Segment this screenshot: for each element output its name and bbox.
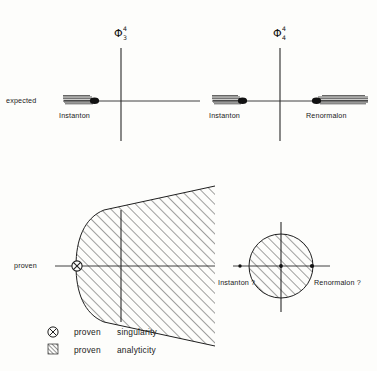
phi-symbol: Φ bbox=[114, 27, 123, 40]
phi-subscript: 3 bbox=[123, 34, 127, 41]
renormalon-query-point bbox=[310, 264, 314, 268]
circled-cross-icon bbox=[48, 327, 58, 337]
top-left-instanton-cut bbox=[63, 96, 99, 104]
top-left-plot-axes bbox=[63, 48, 200, 141]
instanton-query-point bbox=[238, 264, 241, 267]
instanton-label-left: Instanton bbox=[59, 111, 90, 120]
figure-canvas: Φ 4 3 Φ 4 4 expected bbox=[0, 0, 377, 371]
phi-symbol: Φ bbox=[273, 27, 282, 40]
top-right-plot-axes bbox=[212, 48, 368, 141]
instanton-query-label: Instanton ? bbox=[218, 278, 255, 287]
legend-label-word1: proven bbox=[74, 327, 101, 337]
figure-svg: Φ 4 3 Φ 4 4 expected bbox=[0, 0, 377, 371]
legend-label-word2: analyticity bbox=[117, 345, 157, 355]
legend-item-proven-singularity: proven singularity bbox=[48, 327, 158, 337]
proven-singularity-marker bbox=[72, 261, 82, 271]
row-label-proven: proven bbox=[14, 261, 37, 270]
row-label-expected: expected bbox=[6, 96, 36, 105]
renormalon-query-label: Renormalon ? bbox=[314, 278, 361, 287]
phi-superscript: 4 bbox=[123, 25, 127, 32]
top-right-renormalon-cut bbox=[312, 96, 368, 104]
plot-title-phi44: Φ 4 4 bbox=[273, 25, 286, 41]
legend-item-proven-analyticity: proven analyticity bbox=[48, 344, 157, 355]
phi-subscript: 4 bbox=[282, 34, 286, 41]
hatched-square-icon bbox=[48, 344, 58, 354]
renormalon-singularity-dot bbox=[312, 98, 321, 104]
instanton-singularity-dot bbox=[90, 98, 99, 104]
legend-label-word2: singularity bbox=[117, 327, 158, 337]
plot-title-phi43: Φ 4 3 bbox=[114, 25, 127, 41]
origin-point bbox=[279, 264, 283, 268]
instanton-singularity-dot bbox=[238, 98, 247, 104]
instanton-label-right: Instanton bbox=[209, 111, 240, 120]
legend-label-word1: proven bbox=[74, 345, 101, 355]
top-right-instanton-cut bbox=[212, 96, 247, 104]
phi-superscript: 4 bbox=[282, 25, 286, 32]
renormalon-label: Renormalon bbox=[306, 111, 347, 120]
